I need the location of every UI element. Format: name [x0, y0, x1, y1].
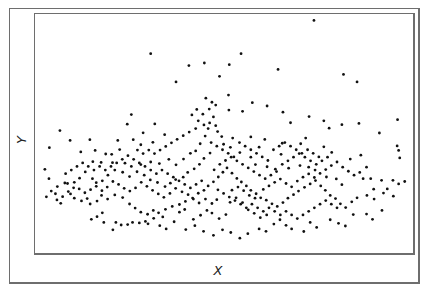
data-point — [152, 209, 155, 212]
data-point — [204, 198, 207, 201]
data-point — [290, 185, 293, 188]
data-point — [194, 150, 197, 153]
data-point — [265, 230, 268, 233]
data-point — [365, 213, 368, 216]
plot-area — [34, 13, 415, 255]
data-point — [63, 182, 66, 185]
data-point — [56, 185, 59, 188]
data-point — [149, 52, 152, 55]
data-point — [212, 180, 215, 183]
data-point — [342, 73, 345, 76]
data-point — [93, 169, 96, 172]
data-point — [273, 210, 276, 213]
data-point — [67, 190, 70, 193]
data-point — [174, 178, 177, 181]
data-point — [326, 156, 329, 159]
data-point — [234, 199, 237, 202]
data-point — [244, 145, 247, 148]
data-point — [161, 216, 164, 219]
data-point — [136, 149, 139, 152]
data-point — [403, 180, 406, 183]
data-point — [238, 151, 241, 154]
data-point — [369, 177, 372, 180]
data-point — [373, 198, 376, 201]
data-point — [259, 196, 262, 199]
data-point — [299, 164, 302, 167]
data-point — [130, 165, 133, 168]
data-point — [280, 153, 283, 156]
data-point — [147, 222, 150, 225]
data-point — [70, 169, 73, 172]
data-point — [100, 194, 103, 197]
data-point — [211, 202, 214, 205]
data-point — [121, 158, 124, 161]
data-point — [266, 159, 269, 162]
data-point — [107, 174, 110, 177]
data-point — [249, 135, 252, 138]
data-point — [140, 181, 143, 184]
data-point — [203, 157, 206, 160]
data-point — [199, 214, 202, 217]
data-point — [283, 141, 286, 144]
data-point — [312, 152, 315, 155]
data-point — [152, 217, 155, 220]
data-point — [54, 192, 57, 195]
data-point — [226, 167, 229, 170]
data-point — [220, 135, 223, 138]
data-point — [262, 188, 265, 191]
data-point — [78, 177, 81, 180]
data-point — [166, 172, 169, 175]
data-point — [123, 187, 126, 190]
data-point — [183, 183, 186, 186]
data-point — [303, 186, 306, 189]
data-point — [116, 139, 119, 142]
data-point — [279, 214, 282, 217]
data-point — [276, 205, 279, 208]
data-point — [303, 156, 306, 159]
data-point — [251, 101, 254, 104]
data-point — [366, 194, 369, 197]
data-point — [86, 197, 89, 200]
data-point — [224, 213, 227, 216]
data-point — [224, 159, 227, 162]
data-point — [261, 156, 264, 159]
data-point — [124, 162, 127, 165]
data-point — [281, 142, 284, 145]
data-point — [392, 179, 395, 182]
data-point — [255, 152, 258, 155]
data-point — [203, 62, 206, 65]
data-point — [195, 108, 198, 111]
data-point — [396, 118, 399, 121]
data-point — [215, 198, 218, 201]
data-point — [190, 113, 193, 116]
data-point — [164, 208, 167, 211]
data-point — [171, 205, 174, 208]
data-point — [282, 111, 285, 114]
data-point — [48, 146, 51, 149]
data-point — [227, 94, 230, 97]
data-point — [274, 168, 277, 171]
data-point — [56, 199, 59, 202]
data-point — [309, 159, 312, 162]
data-point — [217, 176, 220, 179]
data-point — [328, 127, 331, 130]
data-point — [249, 148, 252, 151]
data-point — [263, 138, 266, 141]
data-point — [253, 212, 256, 215]
x-axis-label: X — [214, 263, 223, 278]
data-point — [189, 152, 192, 155]
data-point — [231, 137, 234, 140]
data-point — [356, 196, 359, 199]
data-point — [306, 148, 309, 151]
data-point — [158, 224, 161, 227]
data-point — [178, 211, 181, 214]
data-point — [307, 210, 310, 213]
data-point — [271, 202, 274, 205]
data-point — [134, 187, 137, 190]
data-point — [231, 189, 234, 192]
data-point — [91, 160, 94, 163]
data-point — [212, 234, 215, 237]
data-point — [289, 145, 292, 148]
data-point — [187, 193, 190, 196]
data-point — [330, 203, 333, 206]
